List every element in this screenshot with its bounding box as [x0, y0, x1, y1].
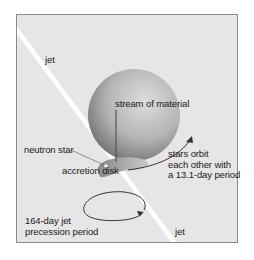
neutron-star-label: neutron star [24, 145, 74, 156]
orbit-period-label: stars orbit each other with a 13.1-day p… [168, 149, 240, 181]
stream-label: stream of material [115, 99, 189, 110]
jet-label-top: jet [45, 55, 55, 66]
precession-period-label: 164-day jet precession period [25, 216, 98, 237]
orbit-line-3: a 13.1-day period [168, 170, 240, 181]
precession-line-2: precession period [25, 227, 98, 238]
accretion-disk-label: accretion disk [62, 166, 119, 177]
jet-label-bottom: jet [175, 227, 185, 238]
orbit-line-1: stars orbit [168, 149, 240, 160]
companion-star [88, 69, 180, 161]
precession-line-1: 164-day jet [25, 216, 98, 227]
